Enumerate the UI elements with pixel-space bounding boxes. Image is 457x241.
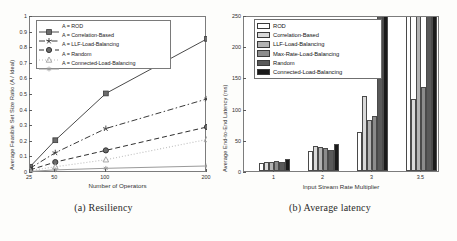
legend-resiliency[interactable]: A = RODA = Correlation-BasedA = LLF-Load…: [36, 20, 171, 69]
legend-item-label: A = Random: [62, 51, 91, 57]
y-tick-label: 0.7: [2, 60, 27, 66]
y-tick-label: 0.2: [2, 138, 27, 144]
y-tick-mark: [243, 141, 246, 142]
legend-item-label: Connected-Load-Balancing: [273, 69, 342, 75]
y-tick-mark: [243, 172, 246, 173]
x-tick-mark: [273, 169, 274, 172]
x-tick-label: 3: [359, 174, 383, 180]
legend-item-label: A = LLF-Load-Balancing: [62, 41, 119, 47]
legend-item[interactable]: Correlation-Based: [257, 31, 379, 40]
legend-latency[interactable]: RODCorrelation-BasedLLF-Load-BalancingMa…: [254, 19, 382, 79]
figure-container: Average Feasible Set Size Ratio (A / Ide…: [0, 0, 457, 241]
x-tick-label: 200: [196, 174, 216, 180]
legend-item-label: LLF-Load-Balancing: [273, 41, 324, 47]
y-tick-label: 150: [219, 75, 241, 81]
y-tick-label: 0.5: [2, 91, 27, 97]
legend-item[interactable]: A = Random: [38, 49, 168, 57]
legend-item[interactable]: ROD: [257, 22, 379, 31]
legend-line-sample: [38, 22, 60, 30]
y-tick-mark: [29, 156, 32, 157]
bar: [383, 17, 388, 171]
bar: [432, 17, 437, 171]
y-tick-label: 0: [219, 169, 241, 175]
y-tick-label: 100: [219, 107, 241, 113]
legend-item[interactable]: A = LLF-Load-Balancing: [38, 40, 168, 48]
y-tick-mark: [243, 78, 246, 79]
legend-color-swatch: [257, 32, 270, 39]
x-tick-mark: [420, 169, 421, 172]
y-tick-label: 0.4: [2, 107, 27, 113]
y-tick-label: 0.9: [2, 29, 27, 35]
legend-color-swatch: [257, 23, 270, 30]
bar: [334, 144, 339, 171]
y-axis-label-latency: Average End-to-End Latency (ms): [222, 84, 228, 172]
y-tick-label: 50: [219, 138, 241, 144]
legend-color-swatch: [257, 60, 270, 67]
panel-b-caption: (b) Average latency: [209, 202, 451, 213]
y-tick-mark: [29, 172, 32, 173]
y-tick-mark: [243, 110, 246, 111]
x-tick-mark: [29, 169, 30, 172]
y-tick-mark: [29, 16, 32, 17]
legend-item-label: A = ROD: [62, 23, 83, 29]
y-tick-label: 0.3: [2, 122, 27, 128]
legend-item[interactable]: Connected-Load-Balancing: [257, 67, 379, 76]
y-tick-mark: [29, 94, 32, 95]
x-tick-mark: [206, 169, 207, 172]
y-tick-mark: [29, 47, 32, 48]
x-tick-label: 100: [95, 174, 115, 180]
legend-item[interactable]: Max-Rate-Load-Balancing: [257, 49, 379, 58]
legend-item-label: Random: [273, 60, 295, 66]
x-tick-mark: [105, 169, 106, 172]
x-tick-label: 50: [44, 174, 64, 180]
legend-item-label: ROD: [273, 23, 286, 29]
y-tick-mark: [29, 78, 32, 79]
legend-item[interactable]: A = ROD: [38, 22, 168, 30]
y-tick-mark: [29, 141, 32, 142]
legend-item-label: A = Correlation-Based: [62, 32, 114, 38]
y-tick-label: 250: [219, 13, 241, 19]
x-tick-label: 2: [310, 174, 334, 180]
y-tick-label: 200: [219, 44, 241, 50]
legend-line-sample: [38, 50, 60, 58]
y-tick-label: 0.6: [2, 75, 27, 81]
x-tick-label: 1: [261, 174, 285, 180]
y-tick-mark: [243, 47, 246, 48]
y-tick-label: 0.8: [2, 44, 27, 50]
x-tick-label: 25: [19, 174, 39, 180]
legend-line-sample: [38, 31, 60, 39]
legend-item[interactable]: Random: [257, 58, 379, 67]
legend-line-sample: [38, 40, 60, 48]
y-tick-mark: [243, 16, 246, 17]
x-tick-mark: [371, 169, 372, 172]
legend-color-swatch: [257, 69, 270, 76]
legend-line-sample: [38, 59, 60, 67]
bar: [285, 159, 290, 171]
panel-a-caption: (a) Resiliency: [0, 202, 211, 213]
legend-item-label: Correlation-Based: [273, 32, 319, 38]
chart-panel-average-latency: Average End-to-End Latency (ms) 05010015…: [215, 0, 457, 241]
x-tick-label: 3.5: [408, 174, 432, 180]
legend-color-swatch: [257, 41, 270, 48]
y-tick-mark: [29, 32, 32, 33]
y-tick-mark: [29, 125, 32, 126]
x-axis-label-resiliency: Number of Operators: [29, 182, 206, 189]
chart-panel-resiliency: Average Feasible Set Size Ratio (A / Ide…: [0, 0, 215, 241]
legend-item[interactable]: A = Connected-Load-Balancing: [38, 59, 168, 67]
legend-color-swatch: [257, 50, 270, 57]
legend-item[interactable]: LLF-Load-Balancing: [257, 40, 379, 49]
y-tick-label: 1: [2, 13, 27, 19]
x-tick-mark: [54, 169, 55, 172]
legend-item[interactable]: A = Correlation-Based: [38, 31, 168, 39]
legend-item-label: Max-Rate-Load-Balancing: [273, 51, 339, 57]
y-tick-mark: [29, 63, 32, 64]
legend-item-label: A = Connected-Load-Balancing: [62, 60, 135, 66]
y-tick-label: 0.1: [2, 153, 27, 159]
x-tick-mark: [322, 169, 323, 172]
y-tick-mark: [29, 110, 32, 111]
series-a-connected-load-balancing: [30, 164, 207, 173]
x-axis-label-latency: Input Stream Rate Multiplier: [243, 183, 439, 190]
